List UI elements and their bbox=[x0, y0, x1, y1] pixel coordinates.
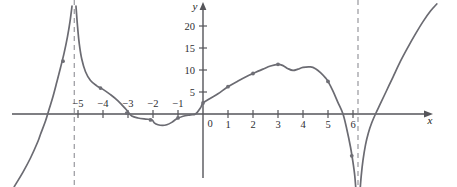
curve-right-branch bbox=[360, 4, 437, 187]
marked-point-1 bbox=[61, 59, 65, 63]
marked-point-5 bbox=[176, 116, 180, 120]
marked-point-10 bbox=[326, 80, 330, 84]
function-graph-figure: −5−4−3−2−101234565101520 xy bbox=[0, 0, 457, 187]
marked-point-2 bbox=[99, 86, 103, 90]
x-tick-label-6: 6 bbox=[350, 119, 355, 130]
x-tick-label-origin: 0 bbox=[207, 118, 212, 129]
x-tick-label-2: 2 bbox=[250, 119, 255, 130]
marked-point-9 bbox=[276, 62, 280, 66]
marked-point-7 bbox=[226, 85, 230, 89]
y-axis-label: y bbox=[192, 0, 198, 12]
y-tick-label-5: 5 bbox=[190, 87, 195, 98]
axis-name-group: xy bbox=[192, 0, 433, 126]
y-tick-label-10: 10 bbox=[185, 65, 196, 76]
marked-point-8 bbox=[251, 72, 255, 76]
tick-group bbox=[78, 26, 353, 118]
curve-group bbox=[14, 4, 437, 187]
marked-point-4 bbox=[149, 118, 153, 122]
x-tick-label-1: 1 bbox=[225, 119, 230, 130]
y-tick-label-15: 15 bbox=[185, 43, 196, 54]
y-axis-arrowhead bbox=[200, 2, 207, 10]
marked-point-3 bbox=[125, 111, 129, 115]
x-tick-label--1: −1 bbox=[172, 98, 183, 109]
y-tick-label-20: 20 bbox=[185, 21, 196, 32]
x-tick-label--2: −2 bbox=[147, 98, 158, 109]
x-tick-label-5: 5 bbox=[325, 119, 330, 130]
marked-point-11 bbox=[350, 154, 354, 158]
x-tick-label--4: −4 bbox=[97, 98, 109, 109]
x-tick-label-4: 4 bbox=[300, 119, 306, 130]
marked-point-6 bbox=[201, 101, 205, 105]
x-axis-label: x bbox=[427, 114, 433, 126]
x-tick-label--5: −5 bbox=[72, 98, 83, 109]
plot-canvas: −5−4−3−2−101234565101520 xy bbox=[0, 0, 457, 187]
curve-left-branch-below-axis bbox=[14, 6, 72, 186]
asymptote-group bbox=[74, 0, 358, 187]
x-tick-label-3: 3 bbox=[275, 119, 280, 130]
x-tick-label--3: −3 bbox=[122, 98, 133, 109]
curve-middle-branch bbox=[76, 6, 356, 187]
